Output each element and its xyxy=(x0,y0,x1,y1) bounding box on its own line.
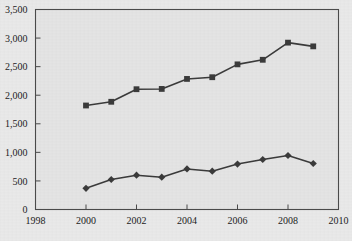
y-tick-label: 0 xyxy=(23,204,28,215)
data-point-marker xyxy=(209,74,215,80)
y-tick-label: 3,000 xyxy=(5,33,28,44)
y-tick-label: 3,500 xyxy=(5,4,28,15)
data-point-marker xyxy=(83,103,89,109)
chart-canvas: 05001,0001,5002,0002,5003,0003,500 19982… xyxy=(0,0,352,241)
y-tick-label: 2,000 xyxy=(5,90,28,101)
data-point-marker xyxy=(310,43,316,49)
x-tick-label: 2010 xyxy=(329,215,349,226)
y-tick-label: 1,000 xyxy=(5,147,28,158)
y-tick-label: 2,500 xyxy=(5,61,28,72)
x-tick-label: 2000 xyxy=(76,215,96,226)
x-tick-label: 1998 xyxy=(26,215,46,226)
y-tick-label: 500 xyxy=(13,176,28,187)
data-point-marker xyxy=(134,86,140,92)
x-tick-label: 2008 xyxy=(278,215,298,226)
data-point-marker xyxy=(108,99,114,105)
plot-area xyxy=(36,10,339,210)
y-tick-label: 1,500 xyxy=(5,118,28,129)
data-point-marker xyxy=(184,76,190,82)
x-tick-label: 2004 xyxy=(177,215,197,226)
x-tick-label: 2002 xyxy=(127,215,147,226)
line-chart: 05001,0001,5002,0002,5003,0003,500 19982… xyxy=(0,0,352,241)
x-tick-label: 2006 xyxy=(228,215,248,226)
data-point-marker xyxy=(285,40,291,46)
data-point-marker xyxy=(159,86,165,92)
data-point-marker xyxy=(235,61,241,67)
data-point-marker xyxy=(260,57,266,63)
